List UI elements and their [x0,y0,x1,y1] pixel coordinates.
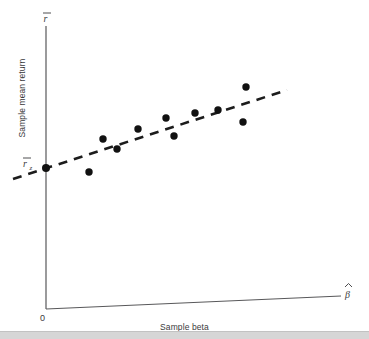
data-point-5 [162,114,169,121]
data-point-4 [134,125,141,132]
intercept-label-subscript: z [29,164,33,172]
y-axis-symbol-text: r [44,13,48,24]
data-point-6 [170,132,177,139]
data-point-8 [214,106,221,113]
data-point-9 [242,83,249,90]
data-point-1 [85,168,92,175]
data-point-2 [99,135,106,142]
y-axis-symbol: r [43,13,51,24]
data-point-10 [239,118,246,125]
hat-accent-icon [345,284,352,288]
x-axis-symbol-text: β [344,289,350,300]
data-point-7 [191,109,198,116]
intercept-point [42,164,50,172]
intercept-label-base: r [23,158,27,169]
data-point-3 [113,145,120,152]
x-axis-line [46,296,341,309]
x-axis-symbol: β [344,284,352,301]
footer-bar [0,331,369,339]
intercept-label: r z [23,158,33,172]
security-market-line [13,90,287,179]
